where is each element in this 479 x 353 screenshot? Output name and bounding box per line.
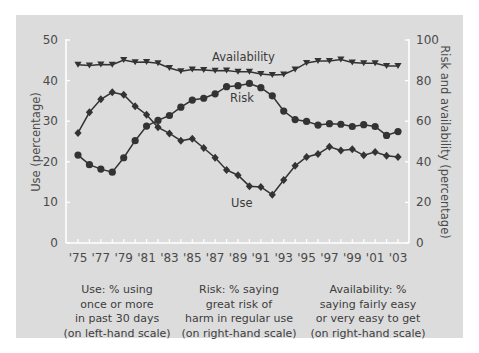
y-left-tick-label: 0	[50, 236, 58, 250]
diamond-marker-icon	[383, 152, 390, 160]
diamond-marker-icon	[257, 183, 264, 191]
circle-marker-icon	[109, 169, 116, 176]
circle-marker-icon	[154, 117, 161, 124]
circle-marker-icon	[257, 84, 264, 91]
diamond-marker-icon	[372, 148, 379, 156]
x-tick-label: '97	[320, 251, 339, 265]
caption-availability: Availability: % saying fairly easy or ve…	[293, 283, 443, 341]
circle-marker-icon	[86, 161, 93, 168]
diamond-marker-icon	[360, 151, 367, 159]
x-tick-label: '85	[183, 251, 202, 265]
x-tick-label: '95	[297, 251, 316, 265]
circle-marker-icon	[120, 154, 127, 161]
diamond-marker-icon	[166, 129, 173, 137]
circle-marker-icon	[303, 118, 310, 125]
circle-marker-icon	[349, 123, 356, 130]
x-tick-label: '77	[92, 251, 111, 265]
circle-marker-icon	[314, 121, 321, 128]
diamond-marker-icon	[177, 137, 184, 145]
circle-marker-icon	[360, 121, 367, 128]
circle-marker-icon	[372, 123, 379, 130]
circle-marker-icon	[166, 112, 173, 119]
use-label: Use	[231, 196, 252, 210]
y-right-tick-label: 0	[416, 236, 424, 250]
y-left-tick-label: 50	[43, 33, 58, 47]
circle-marker-icon	[97, 166, 104, 173]
circle-marker-icon	[337, 121, 344, 128]
circle-marker-icon	[383, 132, 390, 139]
diamond-marker-icon	[394, 153, 401, 161]
y-left-tick-label: 20	[43, 155, 58, 169]
y-left-tick-label: 40	[43, 74, 58, 88]
availability-label: Availability	[212, 50, 275, 64]
y-left-tick-label: 30	[43, 114, 58, 128]
diamond-marker-icon	[326, 143, 333, 151]
circle-marker-icon	[269, 92, 276, 99]
triangle-marker-icon	[292, 66, 299, 72]
x-tick-label: '89	[229, 251, 248, 265]
circle-marker-icon	[177, 104, 184, 111]
circle-marker-icon	[246, 80, 253, 87]
y-right-tick-label: 100	[416, 33, 439, 47]
y-right-tick-label: 60	[416, 114, 431, 128]
axes: 01020304050020406080100'75'77'79'81'83'8…	[43, 33, 439, 265]
x-tick-label: '03	[389, 251, 408, 265]
circle-marker-icon	[74, 152, 81, 159]
diamond-marker-icon	[109, 88, 116, 96]
x-tick-label: '79	[114, 251, 133, 265]
diamond-marker-icon	[337, 146, 344, 154]
circle-marker-icon	[189, 96, 196, 103]
series-layer	[74, 56, 401, 198]
caption-risk: Risk: % saying great risk of harm in reg…	[164, 283, 314, 341]
y-right-tick-label: 40	[416, 155, 431, 169]
diamond-marker-icon	[314, 150, 321, 158]
x-tick-label: '83	[160, 251, 179, 265]
diamond-marker-icon	[74, 129, 81, 137]
diamond-marker-icon	[349, 145, 356, 153]
circle-marker-icon	[200, 95, 207, 102]
circle-marker-icon	[132, 137, 139, 144]
circle-marker-icon	[143, 122, 150, 129]
x-tick-label: '01	[366, 251, 385, 265]
circle-marker-icon	[280, 107, 287, 114]
y-right-tick-label: 80	[416, 74, 431, 88]
x-tick-label: '93	[274, 251, 293, 265]
y-left-tick-label: 10	[43, 195, 58, 209]
y-axis-left-title: Use (percentage)	[29, 92, 43, 192]
x-tick-label: '87	[206, 251, 225, 265]
circle-marker-icon	[223, 83, 230, 90]
x-tick-label: '75	[69, 251, 88, 265]
circle-marker-icon	[394, 128, 401, 135]
x-tick-label: '99	[343, 251, 362, 265]
circle-marker-icon	[292, 116, 299, 123]
circle-marker-icon	[326, 120, 333, 127]
risk-label: Risk	[230, 91, 254, 105]
circle-marker-icon	[234, 82, 241, 89]
x-tick-label: '81	[137, 251, 156, 265]
y-axis-right-title: Risk and availability (percentage)	[438, 45, 452, 238]
x-tick-label: '91	[252, 251, 271, 265]
circle-marker-icon	[212, 90, 219, 97]
y-right-tick-label: 20	[416, 195, 431, 209]
